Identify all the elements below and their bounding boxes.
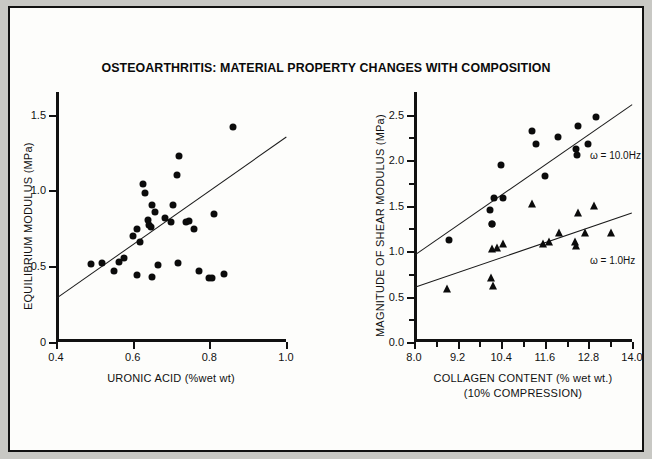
x-axis-title: URONIC ACID (%wet wt)	[107, 372, 235, 384]
y-tick	[407, 251, 414, 253]
data-point-series-1	[572, 241, 580, 249]
data-point-series-1	[590, 201, 598, 209]
y-tick-label: 2.0	[389, 154, 404, 166]
data-point-series-1	[574, 209, 582, 217]
data-point	[191, 226, 198, 233]
x-tick-label: 14.0	[621, 351, 642, 363]
plot-area-right: 0.00.51.01.52.02.58.09.210.411.612.814.0…	[414, 92, 632, 342]
data-point-series-0	[489, 220, 496, 227]
data-point	[195, 267, 202, 274]
x-tick-label: 0.4	[48, 351, 63, 363]
data-point-series-1	[581, 229, 589, 237]
x-tick	[501, 342, 503, 349]
y-tick-minor	[409, 183, 414, 185]
data-point-series-0	[529, 128, 536, 135]
data-point	[230, 123, 237, 130]
data-point	[154, 262, 161, 269]
series-annotation-1: ω = 1.0Hz	[590, 255, 635, 266]
x-tick	[56, 342, 58, 349]
x-tick-minor	[567, 342, 569, 347]
data-point	[186, 217, 193, 224]
y-tick	[407, 342, 414, 344]
trend-line-series-0	[414, 104, 633, 256]
data-point-series-0	[585, 140, 592, 147]
trend-line	[56, 137, 287, 299]
x-tick	[632, 342, 634, 349]
x-axis-left	[56, 339, 286, 342]
x-tick-minor	[479, 342, 481, 347]
data-point-series-0	[592, 113, 599, 120]
x-axis-subtitle: (10% COMPRESSION)	[464, 387, 582, 399]
data-point-series-1	[489, 281, 497, 289]
y-axis-title: EQUILIBRIUM MODULUS (MPa)	[22, 142, 34, 310]
chart-panel-right: 0.00.51.01.52.02.58.09.210.411.612.814.0…	[328, 8, 646, 454]
data-point	[148, 223, 155, 230]
data-point-series-0	[500, 195, 507, 202]
data-point-series-1	[555, 229, 563, 237]
data-point	[134, 272, 141, 279]
data-point	[111, 267, 118, 274]
y-tick-label: 0.0	[389, 336, 404, 348]
series-annotation-0: ω = 10.0Hz	[590, 150, 641, 161]
x-tick	[414, 342, 416, 349]
y-tick-minor	[409, 274, 414, 276]
data-point	[176, 152, 183, 159]
y-tick	[407, 297, 414, 299]
x-tick-minor	[523, 342, 525, 347]
y-tick	[49, 266, 56, 268]
data-point	[220, 270, 227, 277]
data-point	[148, 273, 155, 280]
data-point-series-1	[528, 199, 536, 207]
x-tick-label: 10.4	[490, 351, 511, 363]
trend-line-series-1	[414, 213, 632, 288]
data-point-series-0	[554, 134, 561, 141]
x-tick-minor	[436, 342, 438, 347]
data-point-series-1	[545, 238, 553, 246]
y-tick-label: 0.5	[389, 291, 404, 303]
chart-panel-left: 00.51.01.50.40.60.81.0URONIC ACID (%wet …	[10, 8, 328, 454]
data-point	[174, 260, 181, 267]
data-point	[99, 260, 106, 267]
data-point-series-0	[573, 151, 580, 158]
y-tick-minor	[409, 228, 414, 230]
y-axis-right	[414, 92, 417, 342]
y-tick-minor	[409, 319, 414, 321]
figure-frame: OSTEOARTHRITIS: MATERIAL PROPERTY CHANGE…	[8, 6, 644, 452]
data-point	[141, 189, 148, 196]
x-axis-title: COLLAGEN CONTENT (% wet wt.)	[434, 372, 613, 384]
data-point	[134, 226, 141, 233]
x-tick	[286, 342, 288, 349]
data-point-series-1	[607, 229, 615, 237]
data-point	[174, 172, 181, 179]
x-tick	[545, 342, 547, 349]
data-point-series-0	[490, 195, 497, 202]
data-point	[136, 239, 143, 246]
x-tick-label: 9.2	[450, 351, 465, 363]
data-point	[208, 274, 215, 281]
x-tick-label: 1.0	[278, 351, 293, 363]
y-tick	[407, 160, 414, 162]
data-point	[168, 219, 175, 226]
x-tick	[133, 342, 135, 349]
data-point-series-1	[499, 239, 507, 247]
x-tick-minor	[610, 342, 612, 347]
x-tick	[588, 342, 590, 349]
data-point	[151, 208, 158, 215]
data-point-series-0	[541, 172, 548, 179]
data-point	[170, 201, 177, 208]
y-tick	[407, 115, 414, 117]
y-tick-label: 1.5	[31, 109, 46, 121]
y-tick-label: 2.5	[389, 109, 404, 121]
y-tick	[49, 342, 56, 344]
y-axis-left	[56, 92, 59, 342]
y-tick	[49, 190, 56, 192]
y-axis-title: MAGNITUDE OF SHEAR MODULUS (MPa)	[374, 114, 386, 337]
x-tick-label: 0.8	[202, 351, 217, 363]
y-tick-label: 0	[40, 336, 46, 348]
x-tick-label: 0.6	[125, 351, 140, 363]
data-point-series-1	[443, 285, 451, 293]
data-point-series-0	[498, 161, 505, 168]
data-point-series-0	[532, 140, 539, 147]
x-tick	[458, 342, 460, 349]
y-tick-minor	[409, 137, 414, 139]
